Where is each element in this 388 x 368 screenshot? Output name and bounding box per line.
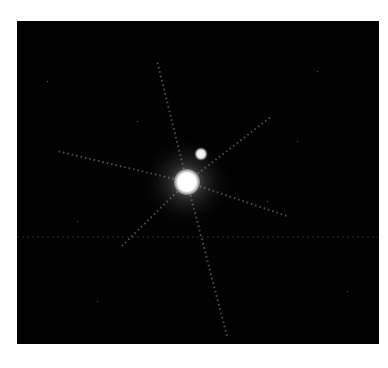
star-image <box>17 21 379 344</box>
starfield <box>17 21 379 344</box>
primary-star <box>174 169 200 195</box>
companion-star <box>194 147 208 161</box>
